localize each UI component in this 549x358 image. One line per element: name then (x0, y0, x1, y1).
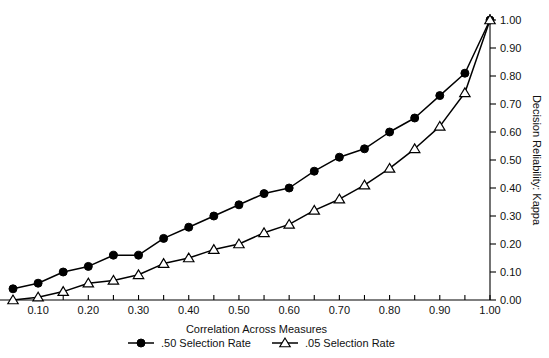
data-point-filled-circle (210, 212, 218, 220)
series-group (8, 15, 495, 304)
axes-group (0, 14, 496, 300)
y-axis-tick-label: 0.50 (500, 154, 521, 166)
y-axis-tick-label: 0.70 (500, 98, 521, 110)
data-point-filled-circle (59, 268, 67, 276)
data-point-filled-circle (185, 223, 193, 231)
data-point-open-triangle (460, 88, 470, 97)
series-line-filled (13, 20, 490, 289)
x-axis-tick-label: 0.10 (27, 304, 48, 316)
data-point-filled-circle (386, 128, 394, 136)
data-point-open-triangle (133, 270, 143, 279)
data-point-filled-circle (109, 251, 117, 259)
data-point-filled-circle (235, 201, 243, 209)
data-point-filled-circle (84, 262, 92, 270)
data-point-open-triangle (359, 180, 369, 189)
x-axis-tick-label: 0.90 (429, 304, 450, 316)
y-axis-title: Decision Reliability: Kappa (531, 95, 543, 226)
y-axis-tick-label: 0.40 (500, 182, 521, 194)
axis-labels-group: 0.100.200.300.400.500.600.700.800.901.00… (27, 14, 543, 335)
y-axis-tick-label: 1.00 (500, 14, 521, 26)
x-axis-tick-label: 0.60 (278, 304, 299, 316)
legend-label: .05 Selection Rate (305, 337, 395, 349)
x-axis-tick-label: 0.70 (329, 304, 350, 316)
y-axis-tick-label: 0.90 (500, 42, 521, 54)
y-axis-tick-label: 0.20 (500, 238, 521, 250)
data-point-filled-circle (160, 234, 168, 242)
y-axis-tick-label: 0.80 (500, 70, 521, 82)
data-point-filled-circle (360, 145, 368, 153)
legend-marker-filled-circle (137, 339, 145, 347)
data-point-filled-circle (411, 114, 419, 122)
data-point-filled-circle (34, 279, 42, 287)
data-point-filled-circle (135, 251, 143, 259)
data-point-open-triangle (309, 205, 319, 214)
line-chart: 0.100.200.300.400.500.600.700.800.901.00… (0, 0, 549, 358)
x-axis-tick-label: 0.40 (178, 304, 199, 316)
y-axis-tick-label: 0.30 (500, 210, 521, 222)
data-point-open-triangle (334, 194, 344, 203)
data-point-filled-circle (310, 167, 318, 175)
data-point-open-triangle (284, 219, 294, 228)
series-line-open (13, 20, 490, 300)
x-axis-tick-label: 0.80 (379, 304, 400, 316)
chart-legend: .50 Selection Rate.05 Selection Rate (128, 337, 395, 349)
y-axis-tick-label: 0.00 (500, 294, 521, 306)
data-point-filled-circle (260, 190, 268, 198)
data-point-filled-circle (335, 153, 343, 161)
x-axis-tick-label: 0.50 (228, 304, 249, 316)
data-point-filled-circle (285, 184, 293, 192)
legend-label: .50 Selection Rate (161, 337, 251, 349)
y-axis-tick-label: 0.10 (500, 266, 521, 278)
x-axis-tick-label: 1.00 (479, 304, 500, 316)
data-point-filled-circle (461, 69, 469, 77)
data-point-filled-circle (436, 92, 444, 100)
y-axis-tick-label: 0.60 (500, 126, 521, 138)
data-point-filled-circle (9, 285, 17, 293)
chart-figure: 0.100.200.300.400.500.600.700.800.901.00… (0, 0, 549, 358)
x-axis-title: Correlation Across Measures (186, 323, 328, 335)
x-axis-tick-label: 0.20 (78, 304, 99, 316)
data-point-open-triangle (234, 239, 244, 248)
x-axis-tick-label: 0.30 (128, 304, 149, 316)
